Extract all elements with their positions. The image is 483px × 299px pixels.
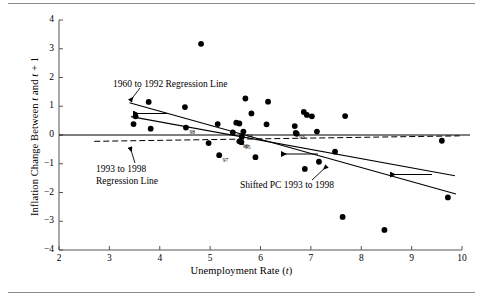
x-tick-label: 2: [49, 253, 69, 263]
data-point: [242, 96, 248, 102]
data-point: [236, 121, 242, 127]
data-point: [342, 113, 348, 119]
data-point: [264, 121, 270, 127]
figure-container: 989796959493 Unemployment Rate (t) Infla…: [0, 0, 483, 299]
data-point: [316, 159, 322, 165]
data-point: [182, 104, 188, 110]
leader-line-1993-1998: [130, 147, 135, 163]
data-point: [183, 125, 189, 131]
x-tick-label: 10: [452, 253, 472, 263]
y-tick-label: 2: [35, 72, 54, 82]
data-point: [206, 140, 212, 146]
annotation-1960-1992-regression-line: 1960 to 1992 Regression Line: [113, 79, 228, 91]
data-point: [445, 194, 451, 200]
data-point: [309, 113, 315, 119]
data-point: [198, 41, 204, 47]
data-point: [382, 227, 388, 233]
x-tick-label: 7: [301, 253, 321, 263]
data-point: [230, 130, 236, 136]
data-point: [249, 111, 255, 117]
data-point: [133, 113, 139, 119]
data-point: [265, 99, 271, 105]
x-axis-title: Unemployment Rate (t): [0, 265, 483, 276]
data-point: [148, 126, 154, 132]
data-point: [253, 154, 259, 160]
y-tick-label: 3: [35, 43, 54, 53]
data-point: [340, 214, 346, 220]
point-year-label: 93: [299, 134, 305, 140]
x-tick-label: 8: [351, 253, 371, 263]
data-point: [292, 123, 298, 129]
point-year-label: 97: [223, 157, 229, 163]
y-tick-label: −1: [35, 158, 54, 168]
data-point: [332, 149, 338, 155]
x-tick-label: 3: [99, 253, 119, 263]
x-tick-label: 5: [200, 253, 220, 263]
x-axis-ticks: [59, 246, 462, 250]
data-point: [314, 129, 320, 135]
x-tick-label: 6: [251, 253, 271, 263]
y-tick-label: 0: [35, 129, 54, 139]
y-tick-label: −3: [35, 215, 54, 225]
y-tick-label: 4: [35, 14, 54, 24]
y-tick-label: −4: [35, 244, 54, 254]
point-year-label: 95: [245, 144, 251, 150]
data-point: [131, 121, 137, 127]
data-point: [302, 166, 308, 172]
x-axis: [59, 246, 462, 250]
point-year-label: 98: [189, 129, 195, 135]
point-year-label: 94: [247, 133, 253, 139]
annotation-shifted-pc: Shifted PC 1993 to 1998: [240, 180, 334, 192]
data-point: [240, 129, 246, 135]
annotation-1993-1998-regression-line: 1993 to 1998 Regression Line: [96, 164, 158, 187]
regression-line: [94, 136, 459, 141]
x-tick-label: 9: [402, 253, 422, 263]
y-tick-label: −2: [35, 187, 54, 197]
y-tick-label: 1: [35, 100, 54, 110]
data-point: [215, 121, 221, 127]
leader-line-shifted-pc: [312, 166, 327, 180]
data-point: [304, 112, 310, 118]
data-point: [146, 99, 152, 105]
point-year-labels: 989796959493: [189, 129, 305, 163]
x-tick-label: 4: [150, 253, 170, 263]
data-point: [439, 138, 445, 144]
data-point: [216, 152, 222, 158]
data-point: [239, 134, 245, 140]
